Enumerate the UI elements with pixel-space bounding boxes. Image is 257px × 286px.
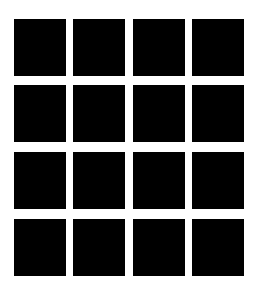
grid-square <box>73 85 125 142</box>
grid-square <box>192 19 244 76</box>
grid-square <box>133 19 185 76</box>
grid-square <box>192 219 244 276</box>
grid-square <box>73 219 125 276</box>
grid-square <box>73 19 125 76</box>
grid-square <box>133 219 185 276</box>
grid-square <box>133 85 185 142</box>
grid-square <box>73 152 125 209</box>
grid-square <box>133 152 185 209</box>
grid-square <box>14 152 66 209</box>
grid-square <box>14 85 66 142</box>
square-grid <box>0 0 257 286</box>
grid-square <box>14 219 66 276</box>
grid-square <box>192 85 244 142</box>
grid-square <box>14 19 66 76</box>
grid-square <box>192 152 244 209</box>
